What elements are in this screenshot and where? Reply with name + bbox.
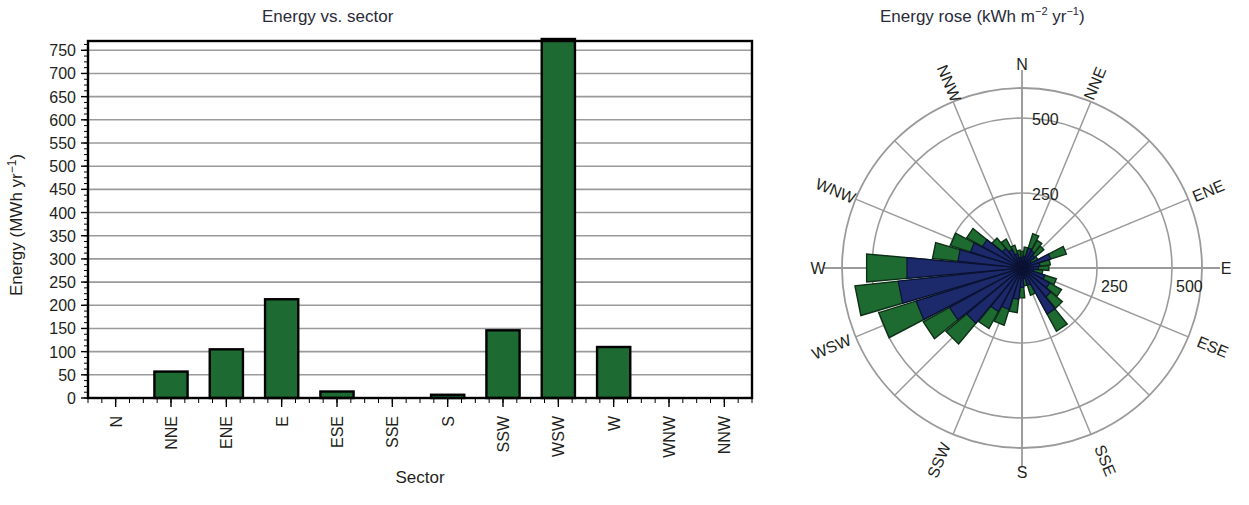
rose-direction-label-ssw: SSW: [924, 439, 954, 480]
rose-direction-label-s: S: [1017, 464, 1028, 481]
energy-rose-chart: 250250500500 NNNEENEEESESSESSSWWSWWWNWNN…: [0, 0, 1249, 505]
rose-direction-label-ese: ESE: [1195, 333, 1231, 361]
rose-petals-inner: [898, 240, 1055, 324]
rose-radial-label-east: 250: [1101, 278, 1128, 295]
rose-radial-label-east: 500: [1176, 278, 1203, 295]
rose-direction-label-ene: ENE: [1190, 177, 1227, 205]
rose-direction-label-e: E: [1221, 260, 1232, 277]
rose-direction-label-sse: SSE: [1091, 442, 1119, 478]
rose-direction-label-n: N: [1016, 56, 1028, 73]
rose-direction-label-wsw: WSW: [809, 331, 854, 363]
rose-direction-label-nne: NNE: [1081, 65, 1110, 103]
rose-radial-label-north: 250: [1032, 186, 1059, 203]
rose-direction-label-nnw: NNW: [934, 63, 965, 106]
figure-root: Energy vs. sector Energy rose (kWh m−2 y…: [0, 0, 1249, 505]
rose-radial-label-north: 500: [1032, 111, 1059, 128]
rose-direction-label-w: W: [810, 260, 826, 277]
rose-direction-label-wnw: WNW: [813, 175, 859, 207]
